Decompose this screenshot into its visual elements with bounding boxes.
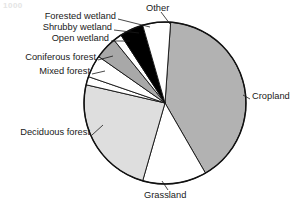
pie-label-other: Other: [146, 3, 169, 13]
pie-label-coniferous-forest: Coniferous forest: [25, 52, 96, 62]
pie-label-grassland: Grassland: [144, 190, 186, 200]
pie-label-shrubby-wetland: Shrubby wetland: [43, 22, 112, 32]
pie-label-cropland: Cropland: [252, 91, 290, 101]
pie-label-forested-wetland: Forested wetland: [45, 11, 116, 21]
pie-chart-figure: 1000 Other Forested wetland Shrubby wetl…: [0, 0, 299, 206]
leader-line-forested-wetland: [118, 19, 150, 27]
pie-label-open-wetland: Open wetland: [52, 33, 109, 43]
pie-label-mixed-forest: Mixed forest: [39, 66, 90, 76]
pie-slices-group: [84, 22, 246, 184]
pie-chart-svg: Other Forested wetland Shrubby wetland O…: [0, 0, 299, 206]
pie-label-deciduous-forest: Deciduous forest: [20, 127, 90, 137]
